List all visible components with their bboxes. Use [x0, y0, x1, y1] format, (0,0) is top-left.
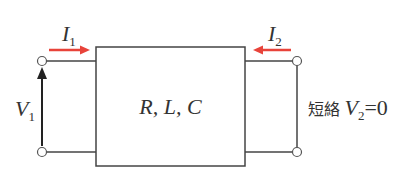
input-terminal-top	[38, 57, 47, 66]
input-current-arrow-head-icon	[80, 46, 90, 55]
box-label: R, L, C	[96, 47, 245, 166]
short-circuit-annotation: 短絡 V2=0	[308, 95, 388, 124]
input-voltage-label: V1	[15, 98, 35, 123]
input-terminal-bottom	[38, 148, 47, 157]
input-current-label: I1	[62, 23, 76, 48]
output-voltage-symbol: V	[345, 95, 358, 120]
voltage-arrow-head-icon	[37, 67, 47, 79]
output-current-arrow-head-icon	[253, 46, 263, 55]
output-terminal-top	[293, 57, 302, 66]
output-current-label: I2	[268, 23, 282, 48]
short-label: 短絡	[308, 100, 340, 119]
output-voltage-value: =0	[364, 95, 387, 120]
output-terminal-bottom	[293, 148, 302, 157]
